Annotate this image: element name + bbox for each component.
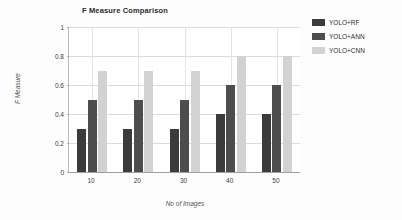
bar: [134, 100, 143, 173]
legend-item[interactable]: YOLO+CNN: [312, 44, 398, 56]
bar: [272, 85, 281, 172]
legend-swatch-icon: [312, 19, 325, 26]
y-axis-tick-mark: [67, 143, 69, 144]
bar: [123, 129, 132, 173]
legend-swatch-icon: [312, 47, 325, 54]
x-axis-tick-label: 50: [261, 177, 291, 184]
x-axis-tick-label: 20: [122, 177, 152, 184]
bar: [191, 71, 200, 173]
bar: [180, 100, 189, 173]
y-axis-tick-label: 1: [60, 24, 64, 31]
legend-label: YOLO+ANN: [329, 33, 365, 40]
chart-figure: F Measure Comparison F Measure 00.20.40.…: [0, 0, 402, 220]
y-axis-title: F Measure: [14, 59, 21, 119]
legend-label: YOLO+CNN: [329, 47, 365, 54]
chart-legend: YOLO+RFYOLO+ANNYOLO+CNN: [312, 16, 398, 58]
bar: [98, 71, 107, 173]
y-axis-tick-mark: [67, 27, 69, 28]
bar: [77, 129, 86, 173]
y-axis-tick-label: 0.4: [55, 111, 64, 118]
y-axis-tick-label: 0.2: [55, 140, 64, 147]
bar: [144, 71, 153, 173]
bar: [88, 100, 97, 173]
y-axis-tick-label: 0.8: [55, 53, 64, 60]
legend-item[interactable]: YOLO+RF: [312, 16, 398, 28]
y-axis-tick-mark: [67, 114, 69, 115]
bar: [226, 85, 235, 172]
bar: [216, 114, 225, 172]
y-axis-tick-label: 0.6: [55, 82, 64, 89]
x-axis-tick-label: 40: [215, 177, 245, 184]
x-axis-tick-label: 10: [76, 177, 106, 184]
x-axis-title: No of Images: [0, 200, 370, 207]
y-axis-tick-mark: [67, 85, 69, 86]
legend-label: YOLO+RF: [329, 19, 360, 26]
y-axis-tick-mark: [67, 56, 69, 57]
chart-title: F Measure Comparison: [82, 6, 168, 15]
legend-swatch-icon: [312, 33, 325, 40]
bar: [262, 114, 271, 172]
bar: [283, 56, 292, 172]
y-axis-tick-mark: [67, 172, 69, 173]
y-axis-tick-labels: 00.20.40.60.81: [44, 27, 64, 173]
bar: [237, 56, 246, 172]
x-axis-tick-label: 30: [169, 177, 199, 184]
y-axis-tick-label: 0: [60, 169, 64, 176]
legend-item[interactable]: YOLO+ANN: [312, 30, 398, 42]
bar: [170, 129, 179, 173]
plot-area: [68, 27, 300, 173]
